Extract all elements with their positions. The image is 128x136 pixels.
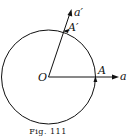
label-point-a-prime: A′ — [67, 21, 79, 34]
arrowhead-a-icon — [112, 75, 119, 80]
rotation-diagram: O A a A′ a′ Fig. 111 — [0, 0, 128, 136]
arrowhead-a-prime-icon — [68, 9, 73, 17]
label-ray-a-prime: a′ — [74, 6, 84, 19]
label-origin: O — [38, 71, 47, 84]
label-point-a: A — [97, 64, 106, 77]
label-ray-a: a — [120, 70, 127, 83]
ray-a-prime — [49, 13, 71, 77]
figure-caption: Fig. 111 — [29, 127, 67, 136]
